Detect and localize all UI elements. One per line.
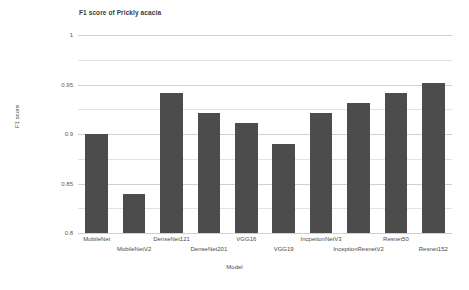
- chart-container: F1 score of Prickly acacia F1 score 0.80…: [0, 0, 469, 290]
- bar-group[interactable]: [235, 35, 257, 233]
- bar-group[interactable]: [123, 35, 145, 233]
- x-axis-tick-label: MobileNet: [83, 236, 110, 242]
- bar-group[interactable]: [272, 35, 294, 233]
- bar[interactable]: [85, 134, 107, 233]
- y-axis-title: F1 score: [14, 105, 20, 128]
- bar[interactable]: [422, 83, 444, 233]
- y-axis-tick-label: 0.8: [65, 230, 78, 236]
- x-axis-tick-label: Resnet50: [383, 236, 409, 242]
- bar-group[interactable]: [347, 35, 369, 233]
- bar[interactable]: [198, 113, 220, 233]
- bar-group[interactable]: [160, 35, 182, 233]
- x-axis-tick-label: MobileNetV2: [117, 246, 151, 252]
- bar[interactable]: [347, 103, 369, 233]
- x-axis-tick-label: DenseNet201: [191, 246, 228, 252]
- bar-group[interactable]: [385, 35, 407, 233]
- chart-title: F1 score of Prickly acacia: [79, 9, 161, 16]
- x-axis-tick-label: VGG19: [274, 246, 294, 252]
- plot-area: 0.80.850.90.951: [78, 35, 452, 233]
- bar-group[interactable]: [310, 35, 332, 233]
- bar[interactable]: [385, 93, 407, 233]
- x-axis-tick-label: VGG16: [236, 236, 256, 242]
- y-axis-tick-label: 1: [70, 32, 78, 38]
- y-axis-tick-label: 0.95: [61, 82, 78, 88]
- bar[interactable]: [272, 144, 294, 233]
- bar[interactable]: [160, 93, 182, 233]
- gridline-major: [78, 233, 452, 234]
- x-axis-tick-label: DenseNet121: [153, 236, 190, 242]
- x-axis-title: Model: [0, 264, 469, 270]
- bars-layer: [78, 35, 452, 233]
- bar-group[interactable]: [85, 35, 107, 233]
- x-axis-tick-label: Resnet152: [419, 246, 448, 252]
- x-axis-tick-label: IncpetionNetV3: [301, 236, 342, 242]
- bar[interactable]: [310, 113, 332, 233]
- x-axis-tick-label: InceptionResnetV2: [333, 246, 384, 252]
- y-axis-tick-label: 0.9: [65, 131, 78, 137]
- y-axis-tick-label: 0.85: [61, 181, 78, 187]
- bar-group[interactable]: [422, 35, 444, 233]
- bar[interactable]: [123, 194, 145, 233]
- bar-group[interactable]: [198, 35, 220, 233]
- bar[interactable]: [235, 123, 257, 233]
